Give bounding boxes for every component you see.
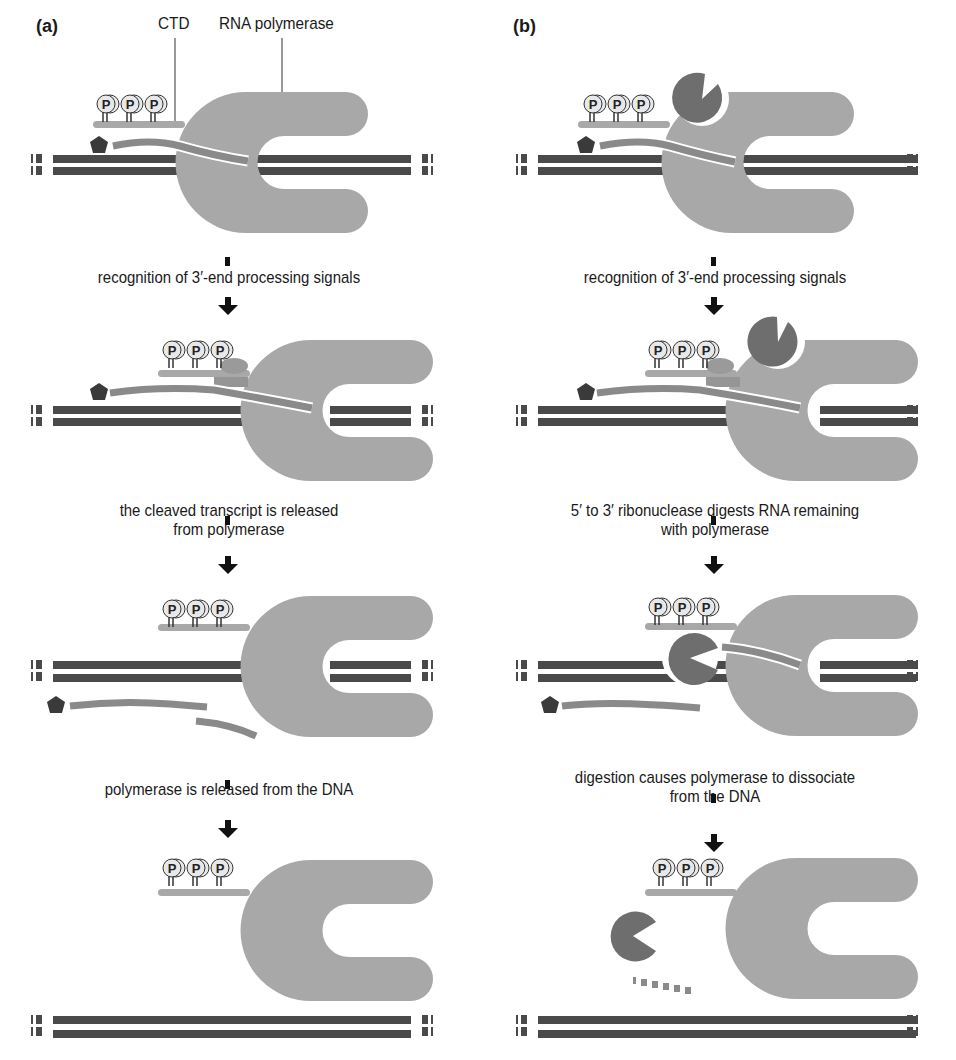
- b-step1: [516, 72, 918, 233]
- exonuclease: [662, 630, 718, 686]
- b-step4: [516, 858, 918, 1038]
- digested-rna-fragments: [633, 977, 691, 994]
- a-step4: [31, 859, 433, 1038]
- a-step1: [31, 38, 433, 233]
- b-step2: [516, 315, 918, 481]
- b-step3: [516, 595, 918, 736]
- exonuclease: [611, 912, 656, 962]
- a-step3: [31, 596, 433, 737]
- diagram-canvas: P P P: [0, 0, 956, 1060]
- a-step2: [31, 340, 433, 481]
